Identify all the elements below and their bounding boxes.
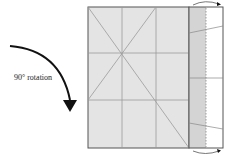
fold-arrow-bottom-icon — [193, 149, 221, 154]
rotation-label: 90° rotation — [14, 73, 52, 82]
fold-arrow-top-icon — [193, 2, 221, 6]
paper-square — [88, 7, 189, 148]
folded-flap — [189, 7, 223, 148]
origami-diagram: 90° rotation — [0, 0, 228, 158]
